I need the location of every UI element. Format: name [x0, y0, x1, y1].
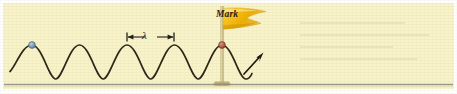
flag-pole-base-shadow — [213, 83, 232, 86]
figure-frame-top — [0, 0, 457, 3]
wave-diagram-figure: Mark λ — [0, 0, 457, 94]
crest-particle-marker-blue — [29, 42, 36, 49]
mark-particle-marker-red — [219, 42, 226, 49]
figure-frame-left — [0, 0, 3, 94]
figure-frame-bottom — [0, 89, 457, 94]
wave-diagram-canvas — [0, 0, 457, 94]
